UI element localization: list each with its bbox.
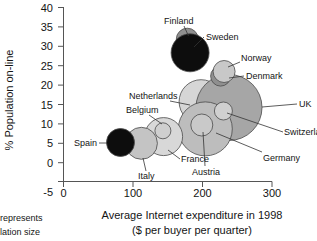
x-tick-300: 300: [263, 187, 281, 199]
point-label-netherlands: Netherlands: [129, 91, 178, 101]
x-axis-title-line1: Average Internet expenditure in 1998: [102, 209, 283, 221]
point-label-denmark: Denmark: [246, 71, 283, 81]
x-tick-0: 0: [60, 187, 66, 199]
point-label-italy: Italy: [138, 171, 155, 181]
x-axis-title-line2: ($ per buyer per quarter): [132, 224, 252, 236]
point-label-spain: Spain: [74, 138, 97, 148]
point-label-finland: Finland: [164, 16, 194, 26]
y-tick-30: 30: [41, 40, 53, 52]
y-axis-title: % Population on-line: [3, 50, 15, 151]
bubble-austria[interactable]: [191, 114, 213, 136]
y-tick-0: 0: [47, 157, 53, 169]
point-label-switzerland: Switzerland: [284, 127, 317, 137]
y-tick-minus5: -5: [43, 186, 53, 198]
y-tick-35: 35: [41, 21, 53, 33]
y-tick-15: 15: [41, 99, 53, 111]
point-label-belgium: Belgium: [126, 105, 159, 115]
bubble-spain[interactable]: [107, 129, 135, 157]
point-label-france: France: [181, 154, 209, 164]
bubble-sweden[interactable]: [171, 34, 209, 72]
bubble-switzerland[interactable]: [214, 102, 232, 120]
x-axis-tick-labels: 0 100 200 300: [60, 187, 281, 199]
y-axis-tick-labels: 40 35 30 25 20 15 10 5 0 -5: [41, 2, 53, 199]
y-tick-10: 10: [41, 118, 53, 130]
y-tick-25: 25: [41, 60, 53, 72]
point-label-germany: Germany: [263, 153, 301, 163]
x-tick-100: 100: [124, 187, 142, 199]
point-label-sweden: Sweden: [206, 32, 239, 42]
point-label-uk: UK: [299, 99, 312, 109]
y-tick-5: 5: [47, 137, 53, 149]
point-label-austria: Austria: [192, 167, 220, 177]
y-axis-ticks: [58, 8, 64, 182]
bubble-norway[interactable]: [213, 61, 235, 83]
y-tick-40: 40: [41, 2, 53, 14]
leader-uk: [262, 104, 297, 107]
size-legend-caption: represents lation size: [0, 213, 43, 237]
x-tick-200: 200: [193, 187, 211, 199]
x-axis-ticks: [64, 182, 273, 188]
bubble-belgium[interactable]: [155, 123, 171, 139]
caption-line1: represents: [0, 213, 43, 223]
point-label-norway: Norway: [241, 53, 272, 63]
bubble-chart-svg: 40 35 30 25 20 15 10 5 0 -5 0 100 200 30…: [0, 0, 317, 241]
caption-line2: lation size: [0, 227, 40, 237]
y-tick-20: 20: [41, 79, 53, 91]
leader-italy: [143, 158, 146, 171]
chart-figure: 40 35 30 25 20 15 10 5 0 -5 0 100 200 30…: [0, 0, 317, 241]
